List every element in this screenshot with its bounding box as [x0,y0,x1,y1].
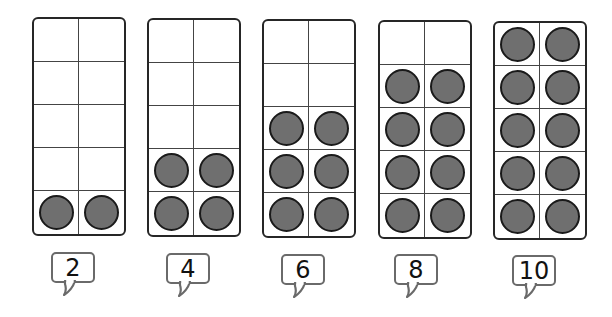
frame-cell [264,150,309,193]
counter-dot [314,111,349,146]
counter-dot [269,154,304,189]
frame-cell [495,66,540,109]
counter-dot [545,27,580,62]
counter-dot [385,155,420,190]
frame-cell [264,193,309,236]
frame-cell [34,62,79,105]
counter-dot [545,156,580,191]
frame-cell [79,148,124,191]
counter-dot [500,113,535,148]
counter-dot [545,113,580,148]
frame-cell [495,23,540,66]
counter-dot [430,112,465,147]
counter-dot [154,153,189,188]
counter-dot [385,69,420,104]
counter-dot [385,198,420,233]
counter-dot [269,111,304,146]
frame-cell [149,192,194,235]
frame-cell [34,148,79,191]
counter-dot [500,156,535,191]
frame-cell [79,105,124,148]
count-label: 10 [519,257,550,285]
counter-dot [314,197,349,232]
counter-dot [269,197,304,232]
frame-cell [34,19,79,62]
frame-cell [79,191,124,234]
counter-dot [314,154,349,189]
frame-cell [79,19,124,62]
frame-cell [194,192,239,235]
speech-tail-icon [406,282,422,298]
counter-dot [545,70,580,105]
frame-cell [309,193,354,236]
counter-dot [430,198,465,233]
count-label-bubble: 10 [512,255,556,286]
count-label: 4 [180,255,195,283]
frame-cell [380,108,425,151]
speech-tail-icon [293,282,309,298]
frame-cell [309,107,354,150]
counter-dot [430,155,465,190]
frame-cell [380,65,425,108]
frame-cell [425,151,470,194]
frame-cell [149,63,194,106]
counter-dot [430,69,465,104]
frame-cell [194,106,239,149]
frame-cell [425,22,470,65]
frame-cell [425,108,470,151]
frame-cell [540,23,585,66]
frame-cell [309,150,354,193]
frame-cell [309,64,354,107]
ten-frame-5 [493,21,587,240]
ten-frame-4 [378,20,472,239]
counter-dot [385,112,420,147]
speech-tail-icon [63,280,79,296]
frame-cell [194,20,239,63]
counter-dot [545,199,580,234]
counter-dot [84,195,119,230]
count-label-bubble: 6 [281,254,325,285]
frame-cell [495,195,540,238]
frame-cell [149,106,194,149]
frame-cell [264,107,309,150]
frame-cell [309,21,354,64]
counter-dot [500,27,535,62]
frame-cell [194,149,239,192]
counter-dot [199,196,234,231]
frame-cell [540,195,585,238]
count-label-bubble: 8 [394,254,438,285]
frame-cell [380,151,425,194]
frame-cell [194,63,239,106]
counter-dot [500,70,535,105]
frame-cell [495,152,540,195]
count-label: 8 [408,256,423,284]
counter-dot [154,196,189,231]
frame-cell [380,22,425,65]
frame-cell [495,109,540,152]
frame-cell [380,194,425,237]
frame-cell [149,20,194,63]
frame-cell [540,152,585,195]
speech-tail-icon [178,281,194,297]
count-label-bubble: 4 [166,253,210,284]
count-label-bubble: 2 [51,252,95,283]
frame-cell [425,65,470,108]
frame-cell [149,149,194,192]
frame-cell [264,21,309,64]
count-label: 6 [295,256,310,284]
counter-dot [39,195,74,230]
ten-frame-2 [147,18,241,237]
frame-cell [540,109,585,152]
frame-cell [79,62,124,105]
counter-dot [199,153,234,188]
speech-tail-icon [524,283,540,299]
count-label: 2 [65,254,80,282]
frame-cell [425,194,470,237]
frame-cell [264,64,309,107]
ten-frame-3 [262,19,356,238]
counter-dot [500,199,535,234]
frame-cell [34,105,79,148]
ten-frame-1 [32,17,126,236]
frame-cell [34,191,79,234]
frame-cell [540,66,585,109]
